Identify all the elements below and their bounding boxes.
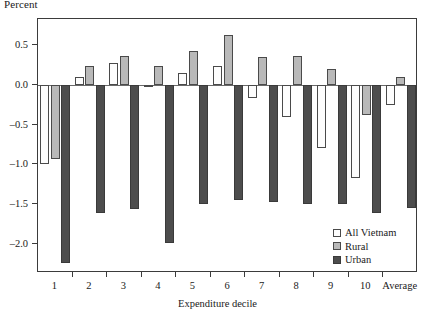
bar	[109, 63, 118, 84]
legend-swatch-icon	[333, 242, 341, 250]
bar-group	[109, 19, 139, 271]
bar	[120, 56, 129, 85]
bar	[282, 85, 291, 117]
legend-label: All Vietnam	[345, 226, 396, 240]
bar-group	[282, 19, 312, 271]
x-axis-label: 1	[52, 280, 57, 291]
legend-item: Urban	[333, 253, 396, 267]
x-axis-tick	[244, 272, 245, 277]
bar	[61, 85, 70, 264]
x-axis-tick	[175, 272, 176, 277]
y-axis-label: –1.0	[0, 158, 28, 169]
bar	[130, 85, 139, 210]
bar	[154, 66, 163, 85]
y-axis-tick	[32, 84, 37, 85]
bar-chart: Percent 0.50.0–0.5–1.0–1.5–2.0 123456789…	[0, 0, 435, 320]
x-axis-label: 7	[259, 280, 264, 291]
bar	[144, 85, 153, 87]
y-axis-label: 0.5	[0, 39, 28, 50]
bar	[165, 85, 174, 243]
x-axis-label: Average	[382, 280, 417, 291]
bar	[407, 85, 416, 208]
y-axis-tick	[32, 243, 37, 244]
bar	[96, 85, 105, 214]
bar-group	[75, 19, 105, 271]
legend-swatch-icon	[333, 229, 341, 237]
y-axis-tick	[32, 163, 37, 164]
bar-group	[248, 19, 278, 271]
x-axis-title: Expenditure decile	[0, 298, 435, 309]
x-axis-tick	[72, 272, 73, 277]
legend-item: All Vietnam	[333, 226, 396, 240]
x-axis-tick	[141, 272, 142, 277]
x-axis-tick	[313, 272, 314, 277]
bar	[224, 35, 233, 85]
x-axis-label: 6	[224, 280, 229, 291]
bar-group	[213, 19, 243, 271]
bar	[189, 51, 198, 85]
bar	[351, 85, 360, 178]
x-axis-tick	[348, 272, 349, 277]
bar	[213, 66, 222, 85]
x-axis-label: 10	[360, 280, 371, 291]
bar	[40, 85, 49, 164]
bar	[85, 66, 94, 85]
y-axis-title: Percent	[4, 0, 38, 10]
bar	[317, 85, 326, 149]
bar	[234, 85, 243, 200]
y-axis-label: –2.0	[0, 237, 28, 248]
x-axis-tick	[210, 272, 211, 277]
x-axis-label: 3	[121, 280, 126, 291]
x-axis-label: 9	[328, 280, 333, 291]
y-axis-label: –1.5	[0, 197, 28, 208]
bar	[178, 73, 187, 85]
y-axis-label: 0.0	[0, 78, 28, 89]
bar	[248, 85, 257, 98]
legend-label: Urban	[345, 253, 371, 267]
x-axis-label: 2	[86, 280, 91, 291]
bar	[327, 69, 336, 85]
bar-group	[40, 19, 70, 271]
y-axis-tick	[32, 44, 37, 45]
bar-group	[178, 19, 208, 271]
legend-swatch-icon	[333, 256, 341, 264]
bar	[293, 56, 302, 85]
bar	[396, 77, 405, 85]
y-axis-label: –0.5	[0, 118, 28, 129]
bar	[199, 85, 208, 204]
bar	[269, 85, 278, 202]
legend-label: Rural	[345, 240, 368, 254]
x-axis-tick	[382, 272, 383, 277]
x-axis-label: 8	[293, 280, 298, 291]
x-axis-label: 5	[190, 280, 195, 291]
bar-group	[144, 19, 174, 271]
bar	[386, 85, 395, 105]
x-axis-label: 4	[155, 280, 160, 291]
bar	[303, 85, 312, 204]
bar	[75, 77, 84, 85]
bar	[362, 85, 371, 115]
bar	[258, 57, 267, 85]
x-axis-tick	[279, 272, 280, 277]
bar	[51, 85, 60, 159]
x-axis-tick	[106, 272, 107, 277]
y-axis-tick	[32, 124, 37, 125]
bar	[372, 85, 381, 214]
bar	[338, 85, 347, 204]
legend-item: Rural	[333, 240, 396, 254]
legend: All VietnamRuralUrban	[333, 226, 396, 267]
y-axis-tick	[32, 203, 37, 204]
